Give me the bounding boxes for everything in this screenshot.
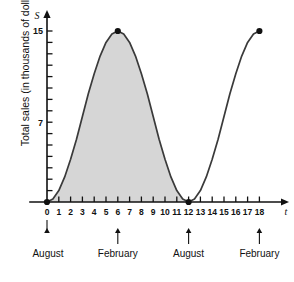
- x-axis-tick-label: 4: [92, 207, 97, 217]
- annotation-label: August: [173, 248, 204, 259]
- x-axis-tick-label: 1: [56, 207, 61, 217]
- x-axis-tick-label: 18: [255, 207, 265, 217]
- shaded-area-under-curve: [47, 31, 189, 202]
- month-annotations: AugustFebruaryAugustFebruary: [32, 220, 279, 259]
- shaded-area-path: [47, 31, 189, 202]
- y-axis-tick-labels: 715: [33, 26, 43, 127]
- x-axis-tick-label: 14: [207, 207, 217, 217]
- x-axis-tick-label: 16: [231, 207, 241, 217]
- x-axis-arrowhead: [281, 198, 289, 205]
- y-axis-ticks: [47, 31, 53, 191]
- x-axis-tick-label: 13: [196, 207, 206, 217]
- x-axis-tick-label: 5: [104, 207, 109, 217]
- annotation-arrowhead: [44, 228, 50, 233]
- x-axis-tick-label: 17: [243, 207, 253, 217]
- y-axis-symbol-label: S: [35, 10, 40, 21]
- x-axis-tick-label: 2: [68, 207, 73, 217]
- y-axis-tick-label: 15: [33, 26, 43, 36]
- x-axis-tick-label: 11: [172, 207, 181, 217]
- annotation-arrowhead: [115, 228, 121, 233]
- annotation-label: February: [98, 248, 138, 259]
- x-axis-tick-label: 7: [127, 207, 132, 217]
- x-axis-tick-labels: 0123456789101112131415161718: [45, 207, 265, 217]
- y-axis-tick-label: 7: [38, 118, 43, 128]
- annotation-arrowhead: [186, 228, 192, 233]
- data-point-marker: [115, 28, 121, 34]
- data-point-marker: [256, 28, 262, 34]
- data-point-marker: [44, 199, 50, 205]
- annotation-label: August: [32, 248, 63, 259]
- annotation-label: February: [239, 248, 279, 259]
- annotation-arrowhead: [257, 228, 263, 233]
- chart-plot-area: 0123456789101112131415161718 715 St Augu…: [0, 0, 294, 282]
- x-axis-tick-label: 3: [80, 207, 85, 217]
- x-axis-tick-label: 8: [139, 207, 144, 217]
- data-point-marker: [186, 199, 192, 205]
- x-axis-tick-label: 15: [219, 207, 229, 217]
- x-axis-tick-label: 0: [45, 207, 50, 217]
- x-axis-tick-label: 12: [184, 207, 194, 217]
- x-axis-tick-label: 9: [151, 207, 156, 217]
- sales-chart-figure: Total sales (in thousands of dollars) 01…: [0, 0, 294, 282]
- x-axis-symbol-label: t: [285, 206, 288, 217]
- y-axis-arrowhead: [43, 10, 50, 18]
- x-axis-tick-label: 6: [115, 207, 120, 217]
- x-axis-tick-label: 10: [160, 207, 170, 217]
